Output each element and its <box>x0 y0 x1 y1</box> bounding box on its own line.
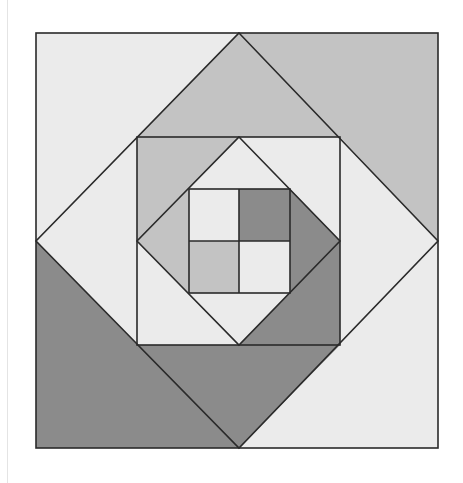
patch-top-left <box>189 189 239 241</box>
patch-bottom-left <box>189 241 239 293</box>
quilt-block-diagram <box>0 0 463 483</box>
patch-bottom-right <box>239 241 290 293</box>
patch-top-right <box>239 189 290 241</box>
